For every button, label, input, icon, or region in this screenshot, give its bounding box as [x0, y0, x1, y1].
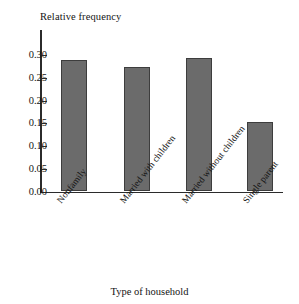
x-axis-title: Type of household — [0, 286, 299, 297]
y-tick-mark — [42, 55, 47, 56]
y-tick-mark — [42, 146, 47, 147]
y-tick-mark — [42, 169, 47, 170]
y-tick-label: 0.00 — [13, 187, 47, 197]
y-tick-mark — [42, 123, 47, 124]
bar-chart: Relative frequency 0.000.050.100.150.200… — [0, 0, 299, 304]
y-axis-title: Relative frequency — [40, 11, 121, 22]
y-tick-mark — [42, 101, 47, 102]
y-tick-mark — [42, 78, 47, 79]
